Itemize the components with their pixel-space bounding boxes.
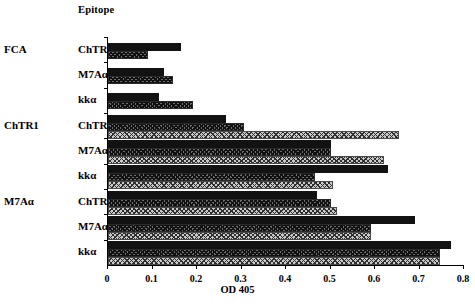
bar — [108, 241, 451, 249]
bar — [108, 51, 148, 59]
x-tick-label: 0.3 — [234, 273, 247, 284]
bar — [108, 43, 181, 51]
bar — [108, 68, 164, 76]
y-tick-mark — [104, 37, 108, 38]
x-tick-mark — [107, 265, 108, 269]
bar — [108, 101, 193, 109]
epitope-column-header: Epitope — [78, 4, 114, 15]
immunogen-group-label: M7Aα — [4, 195, 70, 207]
bar — [108, 224, 371, 232]
bar — [108, 93, 159, 101]
bar — [108, 207, 337, 215]
x-tick-mark — [196, 265, 197, 269]
bar — [108, 181, 333, 189]
bar — [108, 216, 415, 224]
bar — [108, 148, 331, 156]
bar — [108, 165, 388, 173]
x-tick-label: 0.1 — [145, 273, 158, 284]
bar — [108, 173, 315, 181]
x-tick-label: 0.2 — [190, 273, 203, 284]
x-tick-mark — [241, 265, 242, 269]
bar — [108, 115, 226, 123]
bar — [108, 199, 331, 207]
x-tick-mark — [463, 265, 464, 269]
bar — [108, 123, 244, 131]
immunogen-group-label: ChTR1 — [4, 119, 70, 131]
chart-root: Epitope ChTR1FCAM7AαkkαChTR1ChTR1M7Aαkkα… — [0, 0, 475, 307]
bar — [108, 76, 173, 84]
x-axis-title: OD 405 — [0, 284, 475, 295]
bar — [108, 232, 371, 240]
x-tick-mark — [152, 265, 153, 269]
x-tick-label: 0.7 — [412, 273, 425, 284]
x-tick-mark — [285, 265, 286, 269]
plot-area: 00.10.20.30.40.50.60.70.8 — [107, 37, 463, 265]
bar — [108, 156, 384, 164]
y-tick-mark — [104, 88, 108, 89]
immunogen-group-label: FCA — [4, 43, 70, 55]
x-tick-mark — [374, 265, 375, 269]
bar — [108, 257, 440, 265]
bar — [108, 191, 317, 199]
x-tick-label: 0.8 — [457, 273, 470, 284]
y-tick-mark — [104, 62, 108, 63]
x-tick-label: 0.4 — [279, 273, 292, 284]
bar — [108, 249, 440, 257]
x-tick-mark — [330, 265, 331, 269]
x-tick-mark — [419, 265, 420, 269]
x-tick-label: 0 — [105, 273, 110, 284]
x-tick-label: 0.5 — [323, 273, 336, 284]
x-tick-label: 0.6 — [368, 273, 381, 284]
bar — [108, 140, 331, 148]
bar — [108, 131, 399, 139]
